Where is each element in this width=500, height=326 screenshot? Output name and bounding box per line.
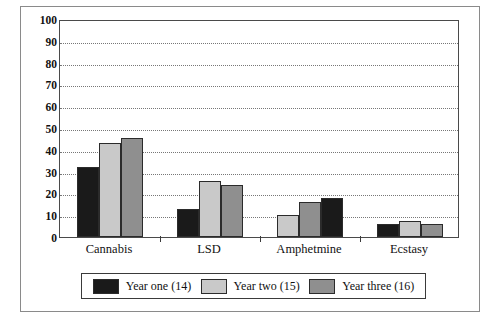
bar <box>421 224 443 237</box>
y-tick-label: 100 <box>23 15 57 26</box>
legend-item: Year two (15) <box>201 279 300 294</box>
y-tick-label: 90 <box>23 36 57 47</box>
bar <box>199 181 221 237</box>
legend-item: Year three (16) <box>309 279 414 294</box>
bar <box>399 221 421 237</box>
bar <box>77 167 99 237</box>
legend-swatch <box>309 279 335 294</box>
bar-group <box>60 21 160 237</box>
x-tick-label: LSD <box>159 241 259 257</box>
bar <box>177 209 199 237</box>
y-axis: 1009080706050403020100 <box>21 20 57 238</box>
y-tick-label: 10 <box>23 211 57 222</box>
bar <box>121 138 143 237</box>
y-tick-label: 40 <box>23 145 57 156</box>
legend-item: Year one (14) <box>93 279 191 294</box>
bar <box>377 224 399 237</box>
legend-label: Year two (15) <box>234 279 300 294</box>
bar-group <box>360 21 460 237</box>
legend-label: Year three (16) <box>342 279 414 294</box>
y-tick-label: 30 <box>23 167 57 178</box>
legend-label: Year one (14) <box>126 279 191 294</box>
legend-swatch <box>201 279 227 294</box>
bar-group <box>260 21 360 237</box>
y-tick-label: 0 <box>23 233 57 244</box>
bar <box>221 185 243 237</box>
y-tick-label: 20 <box>23 189 57 200</box>
bar-group <box>160 21 260 237</box>
y-tick-label: 60 <box>23 102 57 113</box>
y-tick-label: 50 <box>23 124 57 135</box>
plot-area <box>59 20 459 238</box>
x-axis: CannabisLSDAmphetmineEcstasy <box>59 241 459 259</box>
chart-legend: Year one (14)Year two (15)Year three (16… <box>81 273 426 299</box>
bar <box>99 143 121 237</box>
bar <box>321 198 343 237</box>
plot-wrapper: 1009080706050403020100 CannabisLSDAmphet… <box>21 7 481 259</box>
bar <box>277 215 299 237</box>
y-tick-label: 80 <box>23 58 57 69</box>
legend-swatch <box>93 279 119 294</box>
x-tick-label: Amphetmine <box>259 241 359 257</box>
x-tick-label: Cannabis <box>59 241 159 257</box>
x-tick-label: Ecstasy <box>359 241 459 257</box>
bar <box>299 202 321 237</box>
y-tick-label: 70 <box>23 80 57 91</box>
bars-layer <box>60 21 458 237</box>
chart-figure: 1009080706050403020100 CannabisLSDAmphet… <box>20 6 480 312</box>
